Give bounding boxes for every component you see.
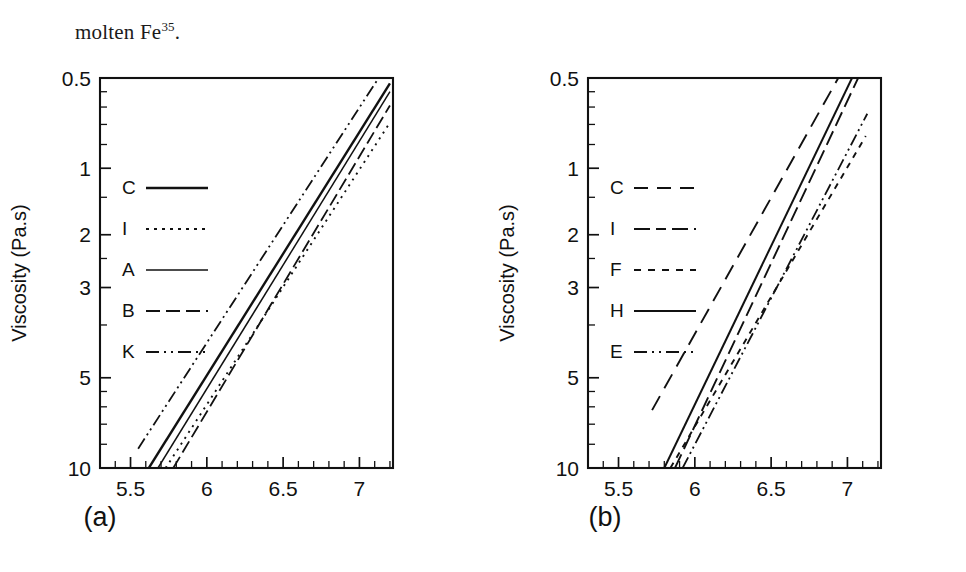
legend-label-i: I bbox=[610, 218, 615, 239]
x-tick-label: 6.5 bbox=[269, 477, 298, 500]
data-line-k bbox=[138, 79, 378, 448]
x-tick-label: 7 bbox=[354, 477, 366, 500]
y-tick-label: 0.5 bbox=[62, 67, 91, 90]
legend-label-b: B bbox=[122, 300, 135, 321]
y-tick-label: 1 bbox=[79, 157, 91, 180]
y-tick-label: 3 bbox=[567, 276, 579, 299]
y-tick-label: 5 bbox=[567, 366, 579, 389]
plot-area-a: 1053210.55.566.57Viscosity (Pa.s)104.T-1… bbox=[0, 60, 470, 500]
y-tick-label: 2 bbox=[567, 223, 579, 246]
plot-frame bbox=[588, 78, 881, 468]
x-tick-label: 7 bbox=[842, 477, 854, 500]
y-axis-title: Viscosity (Pa.s) bbox=[8, 204, 30, 341]
y-tick-label: 2 bbox=[79, 223, 91, 246]
data-line-c bbox=[652, 78, 838, 410]
figure-caption-fragment: molten Fe35. bbox=[75, 20, 180, 45]
y-tick-label: 5 bbox=[79, 366, 91, 389]
y-tick-label: 10 bbox=[68, 457, 91, 480]
plot-frame bbox=[100, 78, 393, 468]
legend-label-e: E bbox=[610, 341, 623, 362]
x-tick-label: 5.5 bbox=[604, 477, 633, 500]
data-line-b bbox=[173, 105, 390, 468]
legend-label-h: H bbox=[610, 300, 624, 321]
x-tick-label: 6 bbox=[201, 477, 213, 500]
legend-label-a: A bbox=[122, 259, 135, 280]
data-line-h bbox=[664, 78, 852, 468]
x-tick-label: 6 bbox=[689, 477, 701, 500]
y-tick-label: 1 bbox=[567, 157, 579, 180]
subcaption-b: (b) bbox=[370, 502, 840, 533]
panel-a: 1053210.55.566.57Viscosity (Pa.s)104.T-1… bbox=[0, 60, 470, 560]
plot-area-b: 1053210.55.566.57Viscosity (Pa.s)104.T-1… bbox=[488, 60, 958, 500]
data-line-e bbox=[683, 114, 868, 468]
data-line-i bbox=[166, 123, 390, 468]
data-line-a bbox=[158, 92, 390, 468]
caption-period: . bbox=[175, 20, 180, 44]
data-line-i bbox=[675, 78, 858, 468]
x-tick-label: 5.5 bbox=[116, 477, 145, 500]
legend-label-k: K bbox=[122, 341, 135, 362]
figure-root: molten Fe35. 1053210.55.566.57Viscosity … bbox=[0, 0, 966, 572]
legend-label-f: F bbox=[610, 259, 622, 280]
legend-label-c: C bbox=[122, 177, 136, 198]
data-line-c bbox=[149, 83, 390, 468]
y-tick-label: 10 bbox=[556, 457, 579, 480]
x-tick-label: 6.5 bbox=[757, 477, 786, 500]
y-tick-label: 3 bbox=[79, 276, 91, 299]
data-line-f bbox=[670, 136, 865, 468]
panel-b: 1053210.55.566.57Viscosity (Pa.s)104.T-1… bbox=[488, 60, 958, 560]
legend-label-c: C bbox=[610, 177, 624, 198]
subcaption-a: (a) bbox=[0, 502, 335, 533]
y-tick-label: 0.5 bbox=[550, 67, 579, 90]
y-axis-title: Viscosity (Pa.s) bbox=[496, 204, 518, 341]
legend-label-i: I bbox=[122, 218, 127, 239]
caption-superscript: 35 bbox=[161, 19, 174, 34]
caption-text: molten Fe bbox=[75, 20, 161, 44]
